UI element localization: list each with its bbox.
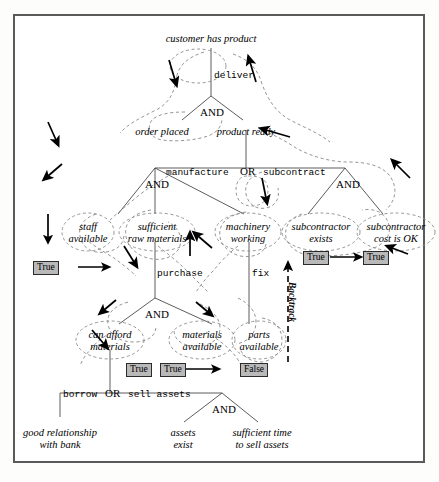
goal-line-2: available (182, 341, 221, 352)
gate-and-sell-assets: AND (212, 403, 236, 415)
diagram-canvas: customer has product deliver AND order p… (0, 0, 439, 482)
goal-materials-available: materials available (182, 329, 222, 352)
value-box-materials-available: True (160, 363, 186, 377)
traversal-arrows (48, 60, 410, 344)
goal-line-1: assets (170, 427, 195, 438)
goal-sufficient-time-to-sell-assets: sufficient time to sell assets (232, 427, 291, 450)
goal-line-2: working (231, 233, 265, 244)
goal-sufficient-raw-materials: sufficient raw materials (128, 221, 187, 244)
annotation-backtrack: Backtrack (287, 282, 297, 322)
gate-or-product-ready: OR (240, 165, 255, 177)
value-box-subcontractor-cost-is-ok: True (363, 251, 389, 265)
goal-line-2: available (239, 341, 278, 352)
leaf-bubbles (62, 49, 435, 359)
traversal-path (80, 52, 395, 368)
goal-subcontractor-exists: subcontractor exists (292, 221, 351, 244)
gate-and-purchase: AND (145, 308, 169, 320)
goal-can-afford-materials: can afford materials (88, 329, 131, 352)
action-sell-assets: sell assets (128, 389, 191, 400)
goal-machinery-working: machinery working (226, 221, 270, 244)
goal-line-1: parts (248, 329, 270, 340)
goal-line-2: exists (309, 233, 332, 244)
goal-line-1: staff (79, 221, 97, 232)
goal-subcontractor-cost-is-ok: subcontractor cost is OK (367, 221, 426, 244)
goal-line-2: to sell assets (235, 439, 288, 450)
goal-line-1: good relationship (23, 427, 97, 438)
goal-good-relationship-with-bank: good relationship with bank (23, 427, 97, 450)
goal-line-1: sufficient (138, 221, 177, 232)
value-arrows (78, 257, 356, 369)
gate-and-subcontract: AND (336, 178, 360, 190)
goal-staff-available: staff available (68, 221, 107, 244)
goal-line-1: sufficient time (232, 427, 291, 438)
goal-line-2: materials (90, 341, 130, 352)
goal-line-1: subcontractor (292, 221, 351, 232)
action-manufacture: manufacture (166, 167, 229, 178)
action-purchase: purchase (157, 268, 203, 279)
goal-line-2: raw materials (128, 233, 187, 244)
goal-customer-has-product: customer has product (166, 33, 257, 45)
action-fix: fix (252, 268, 269, 279)
gate-or-can-afford: OR (105, 387, 120, 399)
goal-product-ready: product ready (217, 126, 275, 138)
value-box-subcontractor-exists: True (303, 251, 329, 265)
action-deliver: deliver (214, 70, 254, 81)
goal-parts-available: parts available (239, 329, 278, 352)
goal-line-2: exist (173, 439, 192, 450)
value-box-can-afford-materials: True (126, 363, 152, 377)
goal-line-1: can afford (88, 329, 131, 340)
goal-line-1: materials (182, 329, 222, 340)
gate-and-root: AND (200, 106, 224, 118)
goal-line-2: available (68, 233, 107, 244)
goal-assets-exist: assets exist (170, 427, 195, 450)
value-box-parts-available: False (240, 363, 268, 377)
action-subcontract: subcontract (263, 167, 326, 178)
value-box-staff-available: True (33, 261, 59, 275)
goal-line-1: machinery (226, 221, 270, 232)
action-borrow: borrow (63, 389, 97, 400)
goal-order-placed: order placed (135, 126, 189, 138)
goal-line-2: cost is OK (374, 233, 418, 244)
goal-line-1: subcontractor (367, 221, 426, 232)
goal-line-2: with bank (39, 439, 80, 450)
gate-and-manufacture: AND (145, 178, 169, 190)
